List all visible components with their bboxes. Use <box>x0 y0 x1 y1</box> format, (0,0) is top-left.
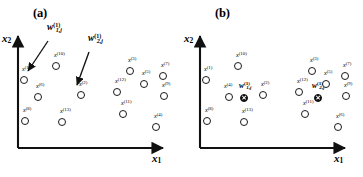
data-point-marker <box>308 67 316 75</box>
panel-a-y-axis-label: x2 <box>2 32 11 45</box>
data-point-index: (1) <box>207 65 213 70</box>
data-point-index: (5) <box>145 69 151 74</box>
panel-a-axes <box>0 0 181 177</box>
data-point-label: x(7) <box>343 62 351 68</box>
panel-b-y-axis-label: x2 <box>184 32 193 45</box>
data-point-marker <box>113 88 121 96</box>
data-point-label: x(1) <box>22 66 30 72</box>
data-point-index: (2) <box>82 80 88 85</box>
data-point-label: x(2) <box>261 81 269 87</box>
data-point-index: (10) <box>239 51 247 56</box>
data-point-index: (7) <box>346 61 352 66</box>
data-point-index: (3) <box>131 56 137 61</box>
data-point-label: x(5) <box>324 70 332 76</box>
data-point-marker <box>301 110 309 118</box>
data-point-marker <box>240 118 248 126</box>
data-point-index: (7) <box>164 61 170 66</box>
weight-label-w1j-panel-b: w(1)1,j <box>239 81 251 90</box>
data-point-marker <box>234 62 242 70</box>
data-point-marker <box>159 72 167 80</box>
data-point-index: (8) <box>26 106 32 111</box>
data-point-label: x(11) <box>121 100 132 106</box>
data-point-marker <box>342 92 350 100</box>
data-point-index: (9) <box>165 81 171 86</box>
data-point-index: (9) <box>347 81 353 86</box>
weight-label-w2j-panel-a: w(1)2,j <box>88 33 103 44</box>
data-point-label: x(10) <box>54 52 65 58</box>
data-point-index: (4) <box>157 112 163 117</box>
data-point-marker <box>20 76 28 84</box>
data-point-index: (12) <box>300 77 308 82</box>
data-point-index: (5) <box>327 69 333 74</box>
panel-b-x-axis-subscript: 1 <box>340 156 344 165</box>
data-point-label: x(3) <box>310 57 318 63</box>
data-point-label: x(2) <box>79 81 87 87</box>
data-point-marker <box>58 118 66 126</box>
weight-label-w1j-panel-a: w(1)1,j <box>47 22 62 33</box>
panel-a-y-axis-subscript: 2 <box>8 36 12 45</box>
data-point-label: x(8) <box>205 107 213 113</box>
data-point-label: x(6) <box>36 83 44 89</box>
data-point-marker <box>334 123 342 131</box>
data-point-marker <box>202 76 210 84</box>
data-point-marker <box>341 72 349 80</box>
data-point-label: x(11) <box>303 100 314 106</box>
data-point-marker <box>77 91 85 99</box>
data-point-marker <box>140 80 148 88</box>
panel-b-axes <box>182 0 363 177</box>
data-point-marker <box>34 93 42 101</box>
weight-subscript: 1,j <box>56 27 62 33</box>
data-point-index: (1) <box>25 65 31 70</box>
data-point-label: x(7) <box>161 62 169 68</box>
data-point-label: x(13) <box>60 108 71 114</box>
panel-a-x-axis-subscript: 1 <box>158 156 162 165</box>
prototype-marker <box>240 94 248 102</box>
panel-a-x-axis-label: x1 <box>152 152 161 165</box>
data-point-index: (13) <box>245 107 253 112</box>
data-point-label: x(13) <box>242 108 253 114</box>
panel-b-x-axis-label: x1 <box>334 152 343 165</box>
prototype-marker <box>314 94 322 102</box>
panel-b-y-axis-subscript: 2 <box>190 36 194 45</box>
data-point-marker <box>203 117 211 125</box>
data-point-marker <box>152 123 160 131</box>
data-point-index: (6) <box>39 82 45 87</box>
data-point-marker <box>322 80 330 88</box>
data-point-marker <box>225 93 233 101</box>
data-point-index: (8) <box>208 106 214 111</box>
data-point-marker <box>126 67 134 75</box>
data-point-index: (3) <box>313 56 319 61</box>
data-point-index: (13) <box>63 107 71 112</box>
data-point-marker <box>21 117 29 125</box>
data-point-label: x(1) <box>204 66 212 72</box>
data-point-marker <box>295 88 303 96</box>
data-point-label: x(3) <box>128 57 136 63</box>
weight-subscript: 1,j <box>246 85 251 90</box>
data-point-marker <box>259 91 267 99</box>
data-point-label: x(4) <box>224 83 232 89</box>
data-point-index: (12) <box>118 77 126 82</box>
data-point-marker <box>119 110 127 118</box>
panel-b: (b) x2 x1 w(1)1,j w(1)2,j x(1)x(10)x(4)x… <box>182 0 363 177</box>
data-point-marker <box>160 92 168 100</box>
data-point-marker <box>52 62 60 70</box>
panel-a: (a) x2 x1 w(1)1,j w(1)2,j <box>0 0 181 177</box>
data-point-label: x(12) <box>297 78 308 84</box>
weight-subscript: 2,j <box>97 38 103 44</box>
data-point-label: x(12) <box>115 78 126 84</box>
data-point-label: x(10) <box>236 52 247 58</box>
data-point-label: x(8) <box>23 107 31 113</box>
data-point-label: x(5) <box>142 70 150 76</box>
data-point-label: x(6) <box>336 113 344 119</box>
data-point-index: (11) <box>124 99 132 104</box>
data-point-label: x(4) <box>154 113 162 119</box>
figure-container: (a) x2 x1 w(1)1,j w(1)2,j <box>0 0 363 177</box>
data-point-index: (6) <box>339 112 345 117</box>
data-point-index: (11) <box>306 99 314 104</box>
data-point-label: x(9) <box>162 82 170 88</box>
data-point-index: (10) <box>57 51 65 56</box>
data-point-label: x(9) <box>344 82 352 88</box>
data-point-index: (4) <box>227 82 233 87</box>
data-point-index: (2) <box>264 80 270 85</box>
